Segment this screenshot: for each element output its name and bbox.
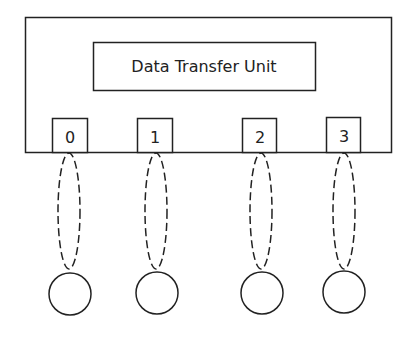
- port-3: 3: [327, 118, 361, 153]
- port-2-label: 2: [255, 128, 265, 147]
- port-1: 1: [138, 119, 173, 153]
- port-2: 2: [243, 119, 277, 153]
- port-3-label: 3: [339, 127, 349, 146]
- device-2: [241, 272, 283, 314]
- device-3: [323, 271, 365, 313]
- cable-2: [250, 153, 272, 269]
- port-1-label: 1: [150, 128, 160, 147]
- port-0-label: 0: [65, 128, 75, 147]
- cable-3: [333, 153, 355, 269]
- unit-label: Data Transfer Unit: [131, 57, 276, 76]
- device-1: [136, 272, 178, 314]
- cable-1: [145, 153, 167, 269]
- port-0: 0: [53, 119, 88, 153]
- device-0: [49, 273, 91, 315]
- data-transfer-diagram: Data Transfer Unit 0 1 2 3: [0, 0, 410, 343]
- cable-0: [58, 153, 80, 269]
